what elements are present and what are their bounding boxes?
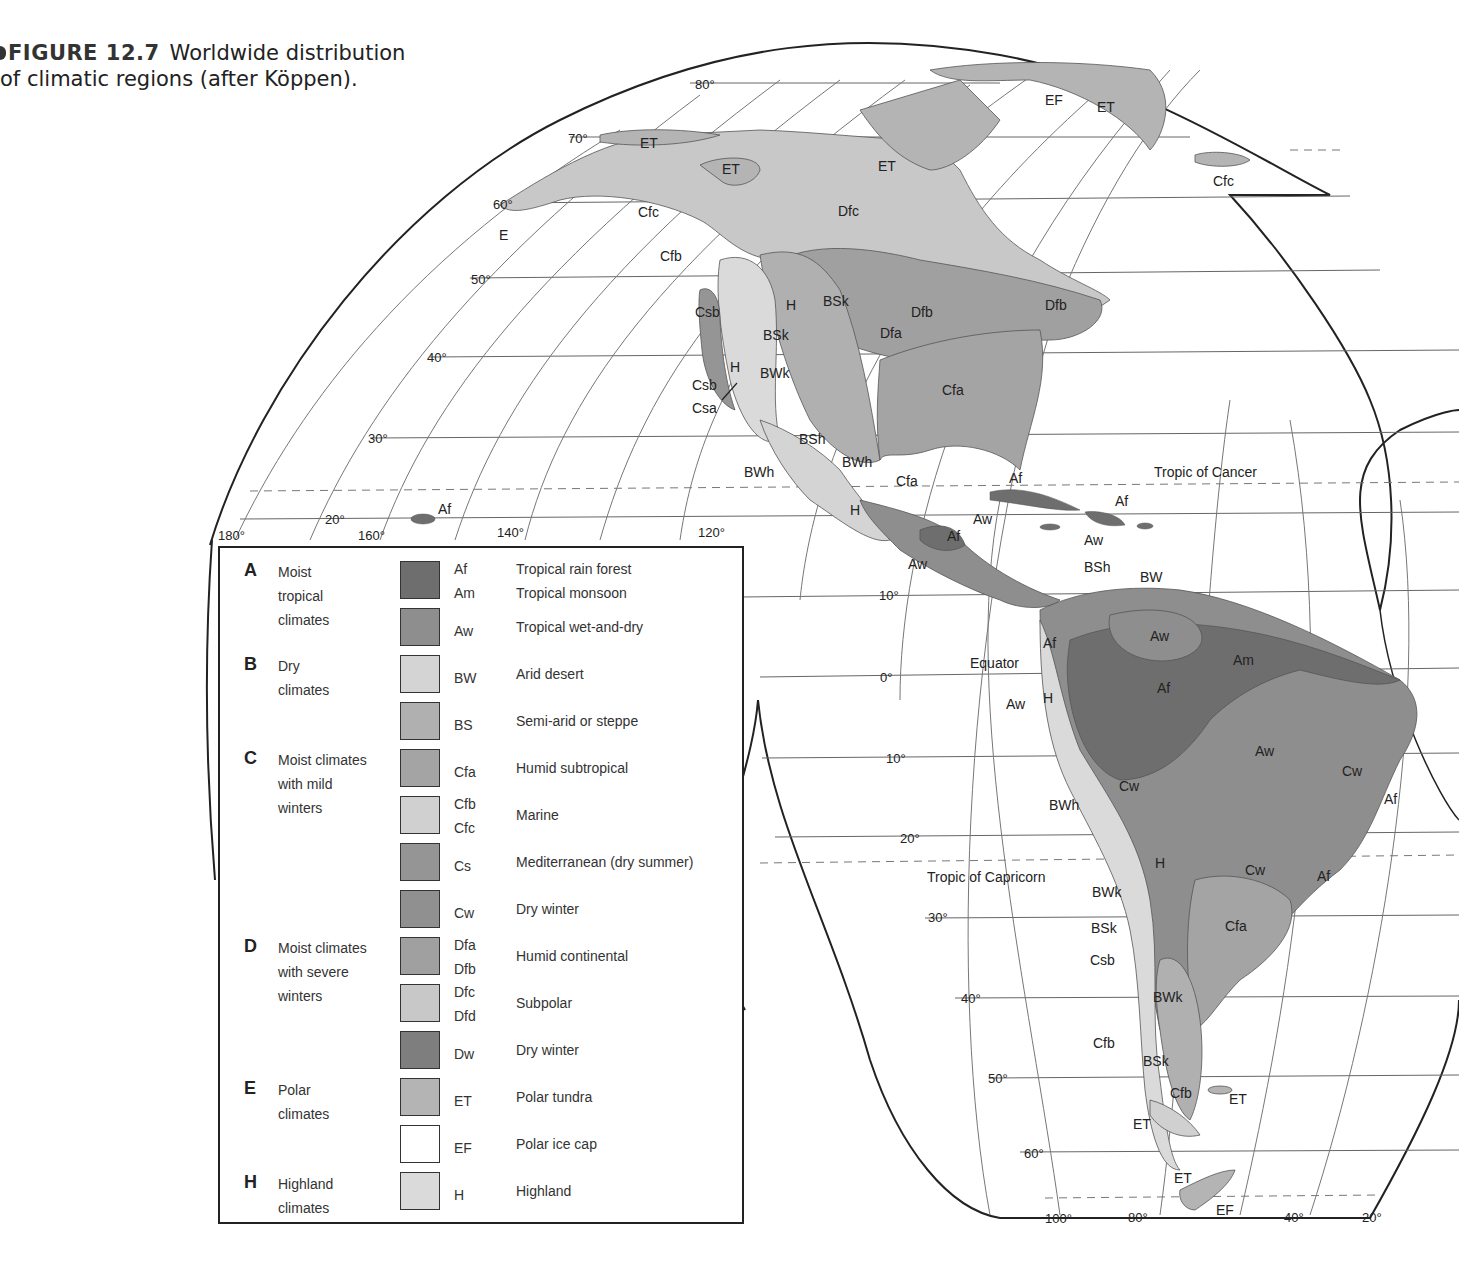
svg-text:Csb: Csb	[692, 377, 717, 393]
svg-text:ET: ET	[878, 158, 896, 174]
svg-text:ET: ET	[1174, 1170, 1192, 1186]
group-letter: A	[244, 560, 257, 581]
group-description: Polarclimates	[278, 1078, 388, 1126]
svg-text:30°: 30°	[368, 431, 388, 446]
group-description: Highlandclimates	[278, 1172, 388, 1220]
swatch-cs	[400, 843, 440, 881]
codes: BS	[454, 713, 473, 737]
legend-row-cw: Cw Dry winter	[400, 890, 740, 930]
svg-text:ET: ET	[1097, 99, 1115, 115]
swatch-dfc-dfd	[400, 984, 440, 1022]
svg-text:50°: 50°	[471, 272, 491, 287]
svg-text:Af: Af	[947, 528, 960, 544]
description: Marine	[516, 807, 559, 823]
codes: Cs	[454, 854, 471, 878]
legend-row-dw: Dw Dry winter	[400, 1031, 740, 1071]
svg-text:Tropic of Capricorn: Tropic of Capricorn	[927, 869, 1046, 885]
svg-text:Af: Af	[438, 501, 451, 517]
svg-text:BWh: BWh	[1049, 797, 1079, 813]
description: Tropical rain forestTropical monsoon	[516, 557, 631, 605]
swatch-h	[400, 1172, 440, 1210]
legend-row-ef: EF Polar ice cap	[400, 1125, 740, 1165]
description: Polar ice cap	[516, 1136, 597, 1152]
group-description: Dryclimates	[278, 654, 388, 702]
legend-row-dfa-dfb: DfaDfb Humid continental	[400, 937, 740, 977]
codes: BW	[454, 666, 477, 690]
description: Mediterranean (dry summer)	[516, 854, 693, 870]
svg-text:120°: 120°	[698, 525, 725, 540]
region-iceland	[1195, 152, 1250, 166]
legend-row-cs: Cs Mediterranean (dry summer)	[400, 843, 740, 883]
svg-text:Equator: Equator	[970, 655, 1019, 671]
svg-text:H: H	[730, 359, 740, 375]
codes: CfbCfc	[454, 792, 476, 840]
svg-text:ET: ET	[1229, 1091, 1247, 1107]
svg-text:BW: BW	[1140, 569, 1163, 585]
svg-text:BSk: BSk	[1143, 1053, 1170, 1069]
group-description: Moisttropicalclimates	[278, 560, 388, 632]
swatch-dfa-dfb	[400, 937, 440, 975]
group-letter: B	[244, 654, 257, 675]
group-description: Moist climateswith severewinters	[278, 936, 388, 1008]
svg-text:E: E	[499, 227, 508, 243]
svg-text:BWk: BWk	[1153, 989, 1184, 1005]
legend-row-bw: BW Arid desert	[400, 655, 740, 695]
svg-text:0°: 0°	[880, 670, 892, 685]
swatch-cfb-cfc	[400, 796, 440, 834]
svg-text:80°: 80°	[695, 77, 715, 92]
svg-text:BWh: BWh	[842, 454, 872, 470]
svg-text:60°: 60°	[1024, 1146, 1044, 1161]
svg-text:BWk: BWk	[1092, 884, 1123, 900]
svg-text:H: H	[850, 502, 860, 518]
svg-text:Aw: Aw	[1255, 743, 1275, 759]
swatch-aw	[400, 608, 440, 646]
svg-text:Csb: Csb	[695, 304, 720, 320]
svg-text:Csb: Csb	[1090, 952, 1115, 968]
svg-text:80°: 80°	[1128, 1210, 1148, 1225]
svg-text:Dfb: Dfb	[1045, 297, 1067, 313]
description: Humid subtropical	[516, 760, 628, 776]
svg-text:Af: Af	[1317, 868, 1330, 884]
codes: DfcDfd	[454, 980, 476, 1028]
svg-text:Dfa: Dfa	[880, 325, 902, 341]
svg-text:ET: ET	[1133, 1116, 1151, 1132]
group-letter: E	[244, 1078, 256, 1099]
svg-text:Af: Af	[1157, 680, 1170, 696]
svg-text:H: H	[1155, 855, 1165, 871]
svg-text:40°: 40°	[427, 350, 447, 365]
codes: AfAm	[454, 557, 475, 605]
svg-text:Af: Af	[1009, 470, 1022, 486]
description: Humid continental	[516, 948, 628, 964]
svg-text:40°: 40°	[961, 991, 981, 1006]
legend-row-aw: Aw Tropical wet-and-dry	[400, 608, 740, 648]
svg-text:Af: Af	[1384, 791, 1397, 807]
svg-text:10°: 10°	[879, 588, 899, 603]
svg-text:Cw: Cw	[1342, 763, 1363, 779]
svg-text:H: H	[786, 297, 796, 313]
svg-text:Aw: Aw	[1084, 532, 1104, 548]
legend-row-bs: BS Semi-arid or steppe	[400, 702, 740, 742]
svg-text:140°: 140°	[497, 525, 524, 540]
svg-text:Af: Af	[1043, 635, 1056, 651]
group-letter: D	[244, 936, 257, 957]
codes: Cfa	[454, 760, 476, 784]
svg-text:Cfb: Cfb	[660, 248, 682, 264]
svg-text:20°: 20°	[1362, 1210, 1382, 1225]
swatch-af-am	[400, 561, 440, 599]
legend-row-h: H Highland	[400, 1172, 740, 1212]
svg-text:20°: 20°	[325, 512, 345, 527]
codes: Dw	[454, 1042, 474, 1066]
swatch-cfa	[400, 749, 440, 787]
codes: DfaDfb	[454, 933, 476, 981]
svg-text:60°: 60°	[493, 197, 513, 212]
description: Polar tundra	[516, 1089, 592, 1105]
codes: H	[454, 1183, 464, 1207]
svg-text:Cfa: Cfa	[896, 473, 918, 489]
svg-text:Cfc: Cfc	[1213, 173, 1234, 189]
svg-text:H: H	[1043, 690, 1053, 706]
svg-text:Am: Am	[1233, 652, 1254, 668]
svg-text:BSk: BSk	[1091, 920, 1118, 936]
swatch-et	[400, 1078, 440, 1116]
svg-text:Cfb: Cfb	[1170, 1085, 1192, 1101]
legend-row-et: ET Polar tundra	[400, 1078, 740, 1118]
